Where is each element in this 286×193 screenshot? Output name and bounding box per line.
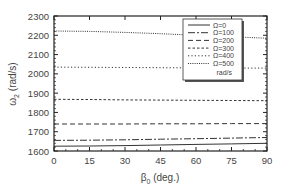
- y-tick-label: 2300: [28, 11, 49, 22]
- y-tick-label: 1700: [28, 126, 49, 137]
- x-tick-label: 45: [155, 155, 166, 166]
- x-tick-label: 0: [51, 155, 56, 166]
- legend: Ω=0Ω=100Ω=200Ω=300Ω=400Ω=500 rad/s: [183, 19, 244, 82]
- y-tick-label: 2000: [28, 68, 49, 79]
- x-tick-label: 30: [120, 155, 131, 166]
- x-axis-label: β0 (deg.): [141, 172, 180, 185]
- y-axis-label: ω2 (rad/s): [7, 62, 20, 105]
- y-tick-label: 1900: [28, 88, 49, 99]
- legend-label: Ω=200: [213, 37, 234, 44]
- legend-label: Ω=100: [213, 29, 234, 36]
- y-tick-label: 1600: [28, 146, 49, 157]
- line-chart: 0153045607590 16001700180019002000210022…: [0, 0, 286, 193]
- series-line-3: [54, 99, 267, 100]
- legend-label: Ω=0: [213, 22, 226, 29]
- series-line-0: [54, 143, 267, 146]
- y-tick-label: 2200: [28, 30, 49, 41]
- x-tick-label: 75: [226, 155, 237, 166]
- x-tick-label: 60: [191, 155, 202, 166]
- legend-label: Ω=400: [213, 52, 234, 59]
- y-tick-label: 1800: [28, 107, 49, 118]
- y-tick-label: 2100: [28, 49, 49, 60]
- series-line-1: [54, 138, 267, 141]
- x-tick-label: 15: [84, 155, 95, 166]
- legend-units: rad/s: [216, 69, 232, 76]
- x-tick-label: 90: [262, 155, 273, 166]
- legend-label: Ω=500: [213, 60, 234, 67]
- legend-label: Ω=300: [213, 45, 234, 52]
